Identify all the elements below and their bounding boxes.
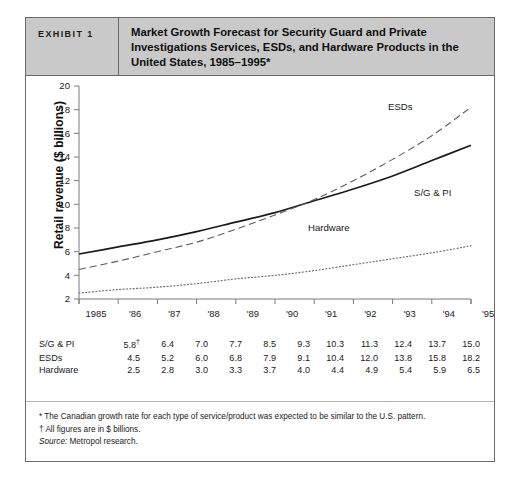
exhibit-title: Market Growth Forecast for Security Guar… (119, 18, 494, 75)
x-tick-label: '95 (482, 308, 494, 319)
x-tick-label: '92 (364, 308, 376, 319)
table-cell: 4.4 (310, 365, 344, 378)
table-row-label: Hardware (39, 365, 106, 378)
table-row: Hardware2.52.83.03.33.74.04.44.95.45.96.… (39, 365, 480, 378)
y-tick-label: 6 (65, 246, 70, 257)
y-tick-label: 4 (65, 270, 71, 281)
chart-plot-area: Retail revenue ($ billions) 246810121416… (26, 76, 494, 338)
table-cell: 6.5 (446, 365, 480, 378)
source-label: Source: (39, 437, 67, 446)
table-cell: 4.0 (276, 365, 310, 378)
table-cell: 4.9 (344, 365, 378, 378)
footnotes: * The Canadian growth rate for each type… (26, 401, 494, 449)
table-cell: 6.8 (208, 353, 242, 366)
table-cell: 6.0 (174, 353, 208, 366)
footnote-dagger: † All figures are in $ billions. (39, 424, 482, 436)
table-cell: 8.5 (242, 338, 276, 353)
table-cell: 7.0 (174, 338, 208, 353)
source-text: Metropol research. (67, 437, 138, 446)
table-cell: 3.0 (174, 365, 208, 378)
y-tick-label: 20 (59, 80, 70, 91)
table-cell: 4.5 (106, 353, 140, 366)
y-tick-label: 10 (59, 199, 70, 210)
x-tick-label: '91 (325, 308, 337, 319)
y-tick-label: 2 (65, 293, 70, 304)
x-tick-label: '87 (168, 308, 180, 319)
table-cell: 3.7 (242, 365, 276, 378)
table-cell: 9.3 (276, 338, 310, 353)
table-row-label: S/G & PI (39, 338, 106, 353)
series-line-s-g-pi (79, 145, 471, 254)
table-cell: 9.1 (276, 353, 310, 366)
y-tick-label: 18 (59, 104, 70, 115)
table-cell: 5.2 (140, 353, 174, 366)
table-cell: 13.7 (412, 338, 446, 353)
y-tick-label: 16 (59, 128, 70, 139)
source-line: Source: Metropol research. (39, 436, 482, 448)
exhibit-header: EXHIBIT 1 Market Growth Forecast for Sec… (26, 18, 494, 76)
exhibit-panel: EXHIBIT 1 Market Growth Forecast for Sec… (25, 17, 495, 462)
dagger-marker: † (136, 338, 140, 345)
table-row: S/G & PI5.8†6.47.07.78.59.310.311.312.41… (39, 338, 480, 353)
exhibit-tag: EXHIBIT 1 (26, 18, 119, 75)
exhibit-tag-label: EXHIBIT 1 (38, 29, 94, 39)
table-cell: 3.3 (208, 365, 242, 378)
y-tick-label: 8 (65, 222, 70, 233)
table-cell: 18.2 (446, 353, 480, 366)
line-chart: 24681012141618201985'86'87'88'89'90'91'9… (26, 76, 494, 338)
table-cell: 5.9 (412, 365, 446, 378)
table-cell: 5.4 (378, 365, 412, 378)
series-label-esds: ESDs (388, 101, 413, 112)
x-tick-label: '94 (443, 308, 455, 319)
table-cell: 11.3 (344, 338, 378, 353)
table-cell: 7.7 (208, 338, 242, 353)
y-tick-label: 12 (59, 175, 70, 186)
table-cell: 10.3 (310, 338, 344, 353)
x-tick-label: '88 (207, 308, 219, 319)
data-table: S/G & PI5.8†6.47.07.78.59.310.311.312.41… (39, 338, 480, 378)
table-row-label: ESDs (39, 353, 106, 366)
table-cell: 7.9 (242, 353, 276, 366)
y-tick-label: 14 (59, 151, 70, 162)
data-table-body: S/G & PI5.8†6.47.07.78.59.310.311.312.41… (39, 338, 480, 378)
x-tick-label: 1985 (86, 308, 107, 319)
table-cell: 5.8† (106, 338, 140, 353)
table-cell: 2.5 (106, 365, 140, 378)
series-label-s-g-pi: S/G & PI (414, 187, 451, 198)
x-tick-label: '90 (286, 308, 298, 319)
table-row: ESDs4.55.26.06.87.99.110.412.013.815.818… (39, 353, 480, 366)
table-cell: 12.4 (378, 338, 412, 353)
table-cell: 15.0 (446, 338, 480, 353)
footnote-asterisk: * The Canadian growth rate for each type… (39, 411, 482, 423)
table-cell: 12.0 (344, 353, 378, 366)
table-cell: 2.8 (140, 365, 174, 378)
table-cell: 6.4 (140, 338, 174, 353)
table-cell: 13.8 (378, 353, 412, 366)
x-tick-label: '86 (129, 308, 141, 319)
series-label-hardware: Hardware (308, 222, 350, 233)
series-line-esds (79, 107, 471, 269)
table-cell: 10.4 (310, 353, 344, 366)
x-tick-label: '93 (403, 308, 415, 319)
series-line-hardware (79, 246, 471, 293)
table-cell: 15.8 (412, 353, 446, 366)
data-table-container: S/G & PI5.8†6.47.07.78.59.310.311.312.41… (26, 338, 494, 378)
x-tick-label: '89 (247, 308, 259, 319)
